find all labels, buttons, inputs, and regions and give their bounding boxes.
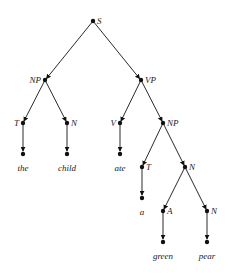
node-n xyxy=(65,121,69,125)
label-a: A xyxy=(166,206,173,216)
label-np: NP xyxy=(28,75,41,85)
label-n2: N xyxy=(188,162,196,172)
edge-s-vp xyxy=(93,21,140,79)
edge-s-np xyxy=(47,21,94,79)
node-a xyxy=(161,209,165,213)
edge-np2-n xyxy=(163,123,184,165)
node-np2 xyxy=(161,121,165,125)
parse-tree-diagram: S NP VP T N V NP T N A N the child ate a… xyxy=(0,0,230,277)
leaf-dot-pear xyxy=(205,240,209,244)
node-v xyxy=(118,121,122,125)
node-np xyxy=(43,78,47,82)
edge-np-t xyxy=(24,80,45,121)
terminal-words: the child ate a green pear xyxy=(18,163,216,261)
word-child: child xyxy=(58,163,76,173)
node-s xyxy=(91,19,95,23)
label-np2: NP xyxy=(166,118,179,128)
edge-np-n xyxy=(45,80,66,121)
edge-vp-np xyxy=(141,80,162,121)
label-s: S xyxy=(97,16,102,26)
node-t2 xyxy=(140,165,144,169)
node-labels: S NP VP T N V NP T N A N xyxy=(14,16,218,216)
node-vp xyxy=(139,78,143,82)
leaf-dot-a xyxy=(140,196,144,200)
label-n: N xyxy=(70,118,78,128)
leaf-dot-child xyxy=(65,152,69,156)
word-the: the xyxy=(18,163,29,173)
leaf-edges xyxy=(23,123,207,239)
label-t2: T xyxy=(146,162,152,172)
edge-np2-t xyxy=(143,123,163,165)
word-pear: pear xyxy=(198,251,216,261)
node-n3 xyxy=(205,209,209,213)
leaf-dot-green xyxy=(161,240,165,244)
label-vp: VP xyxy=(145,75,156,85)
word-a: a xyxy=(140,207,145,217)
edge-n2-n3 xyxy=(185,167,206,209)
leaf-dot-the xyxy=(21,152,25,156)
label-t: T xyxy=(14,118,20,128)
label-n3: N xyxy=(210,206,218,216)
leaf-dot-ate xyxy=(118,152,122,156)
word-ate: ate xyxy=(115,163,126,173)
tree-edges xyxy=(24,21,206,209)
node-t xyxy=(21,121,25,125)
word-green: green xyxy=(153,251,174,261)
label-v: V xyxy=(111,118,118,128)
edge-vp-v xyxy=(121,80,141,121)
edge-n2-a xyxy=(164,167,185,209)
node-n2 xyxy=(183,165,187,169)
